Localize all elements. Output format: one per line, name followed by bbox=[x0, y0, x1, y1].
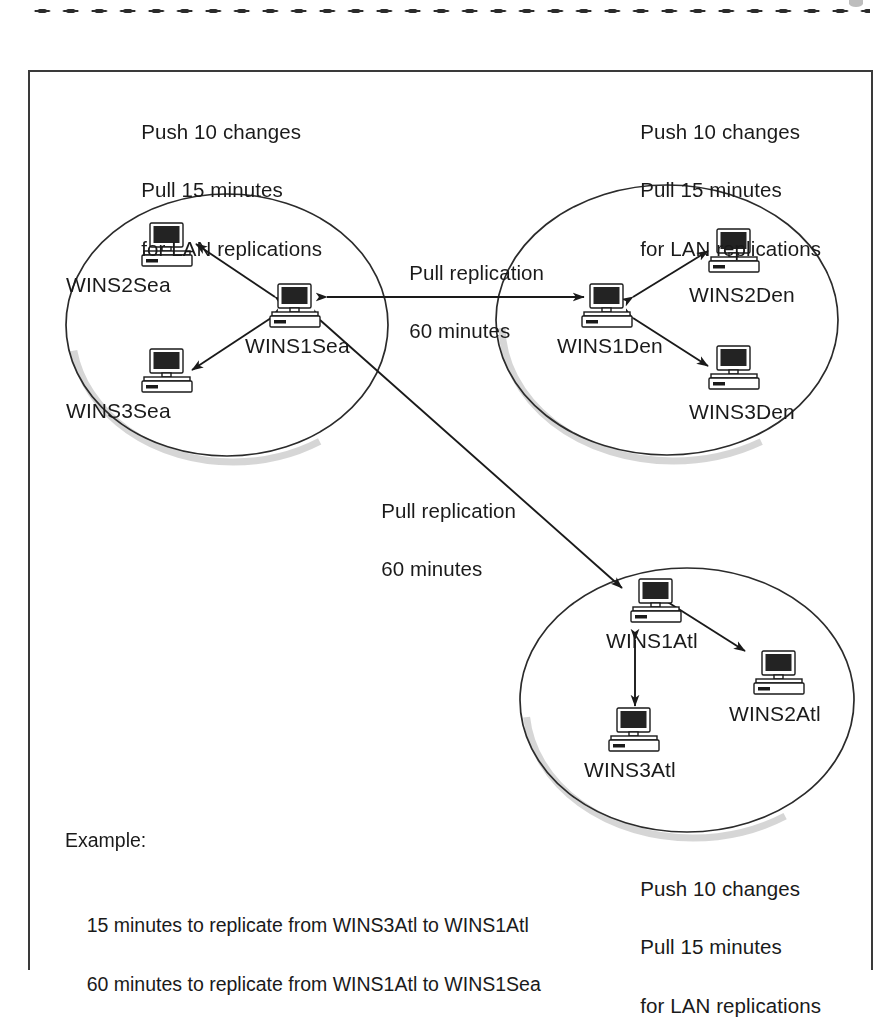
policy-seattle-line3: for LAN replications bbox=[141, 237, 322, 260]
node-label-wins2atl: WINS2Atl bbox=[729, 699, 821, 729]
node-label-wins1atl: WINS1Atl bbox=[606, 626, 698, 656]
computer-icon-wins2atl bbox=[752, 650, 810, 696]
wan-label-seattle-atlanta: Pull replication 60 minutes bbox=[358, 467, 516, 613]
example-line-2: 60 minutes to replicate from WINS1Atl to… bbox=[87, 973, 541, 995]
wan-sea-atl-line2: 60 minutes bbox=[381, 557, 482, 580]
example-heading: Example: bbox=[65, 827, 146, 855]
policy-atlanta-line2: Pull 15 minutes bbox=[640, 935, 782, 958]
wan-label-seattle-denver: Pull replication 60 minutes bbox=[386, 229, 544, 375]
example-line-1: 15 minutes to replicate from WINS3Atl to… bbox=[87, 914, 529, 936]
node-label-wins3den: WINS3Den bbox=[689, 397, 795, 427]
computer-icon-wins3sea bbox=[140, 348, 198, 394]
policy-note-seattle: Push 10 changes Pull 15 minutes for LAN … bbox=[118, 88, 322, 292]
policy-note-denver: Push 10 changes Pull 15 minutes for LAN … bbox=[617, 88, 821, 292]
node-label-wins3sea: WINS3Sea bbox=[66, 396, 171, 426]
computer-icon-wins1atl bbox=[629, 578, 687, 624]
node-label-wins1sea: WINS1Sea bbox=[245, 331, 350, 361]
computer-icon-wins3den bbox=[707, 345, 765, 391]
wan-sea-den-line2: 60 minutes bbox=[409, 319, 510, 342]
example-body: 15 minutes to replicate from WINS3Atl to… bbox=[65, 882, 541, 1021]
policy-denver-line2: Pull 15 minutes bbox=[640, 178, 782, 201]
policy-atlanta-line3: for LAN replications bbox=[640, 994, 821, 1017]
wan-sea-den-line1: Pull replication bbox=[409, 261, 544, 284]
policy-denver-line1: Push 10 changes bbox=[640, 120, 800, 143]
policy-seattle-line1: Push 10 changes bbox=[141, 120, 301, 143]
node-label-wins1den: WINS1Den bbox=[557, 331, 663, 361]
policy-atlanta-line1: Push 10 changes bbox=[640, 877, 800, 900]
policy-note-atlanta: Push 10 changes Pull 15 minutes for LAN … bbox=[617, 845, 821, 1021]
policy-denver-line3: for LAN replications bbox=[640, 237, 821, 260]
computer-icon-wins3atl bbox=[607, 707, 665, 753]
policy-seattle-line2: Pull 15 minutes bbox=[141, 178, 283, 201]
wan-sea-atl-line1: Pull replication bbox=[381, 499, 516, 522]
node-label-wins3atl: WINS3Atl bbox=[584, 755, 676, 785]
